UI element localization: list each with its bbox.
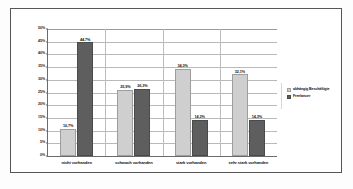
bar[interactable]: 14,3% — [249, 120, 265, 156]
bar-group: 34,3%14,3%stark vorhanden — [163, 29, 220, 156]
bar-group: 25,9%26,3%schwach vorhanden — [105, 29, 162, 156]
bar[interactable]: 25,9% — [117, 90, 133, 156]
bar-value-label: 32,1% — [235, 71, 245, 75]
y-axis-tick-label: 30% — [38, 78, 45, 82]
x-axis-category-label: schwach vorhanden — [115, 161, 153, 165]
y-axis-tick-label: 15% — [38, 116, 45, 120]
bar-value-label: 34,3% — [177, 65, 187, 69]
chart-frame: 50%45%40%35%30%25%20%15%10%5%0% 10,7%44,… — [10, 8, 342, 173]
y-axis-tick-label: 0% — [40, 154, 45, 158]
bar[interactable]: 32,1% — [232, 74, 248, 156]
bar[interactable]: 14,3% — [192, 120, 208, 156]
bar-group: 10,7%44,7%nicht vorhanden — [48, 29, 105, 156]
y-axis-tick-label: 45% — [38, 40, 45, 44]
bar-value-label: 25,9% — [120, 86, 130, 90]
bar[interactable]: 44,7% — [77, 42, 93, 156]
bar-value-label: 14,3% — [252, 116, 262, 120]
legend-divider — [281, 83, 282, 109]
bar-value-label: 14,3% — [194, 116, 204, 120]
plot-area: 50%45%40%35%30%25%20%15%10%5%0% 10,7%44,… — [47, 29, 277, 157]
x-axis-category-label: sehr stark vorhanden — [229, 161, 269, 165]
legend-item[interactable]: Freelancer — [287, 94, 343, 99]
y-axis-tick-label: 50% — [38, 27, 45, 31]
bar-value-label: 10,7% — [63, 125, 73, 129]
y-axis-tick-label: 20% — [38, 103, 45, 107]
chart-legend: abhängig BeschäftigteFreelancer — [287, 87, 343, 101]
bar[interactable]: 34,3% — [175, 69, 191, 156]
y-axis-tick-label: 35% — [38, 65, 45, 69]
legend-item-label: Freelancer — [293, 95, 310, 99]
y-axis-tick-label: 40% — [38, 53, 45, 57]
x-axis-category-label: nicht vorhanden — [61, 161, 91, 165]
bar[interactable]: 10,7% — [60, 129, 76, 156]
y-axis-tick-label: 10% — [38, 129, 45, 133]
legend-swatch-icon — [287, 95, 291, 99]
x-axis-category-label: stark vorhanden — [176, 161, 206, 165]
legend-item-label: abhängig Beschäftigte — [293, 88, 329, 92]
y-axis-tick-label: 5% — [40, 142, 45, 146]
bar[interactable]: 26,3% — [134, 89, 150, 156]
chart-figure: 50%45%40%35%30%25%20%15%10%5%0% 10,7%44,… — [0, 0, 353, 189]
legend-swatch-icon — [287, 88, 291, 92]
legend-item[interactable]: abhängig Beschäftigte — [287, 87, 343, 92]
bar-value-label: 44,7% — [80, 39, 90, 43]
bar-value-label: 26,3% — [137, 85, 147, 89]
y-axis-tick-label: 25% — [38, 91, 45, 95]
bar-group: 32,1%14,3%sehr stark vorhanden — [220, 29, 277, 156]
